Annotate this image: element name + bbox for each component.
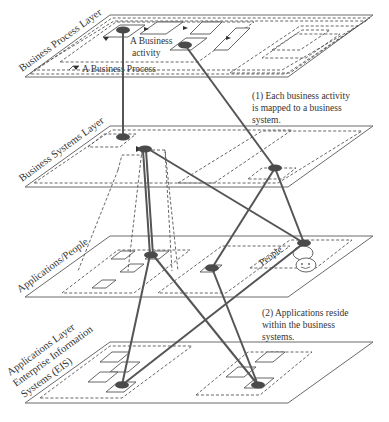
node-app-1 — [144, 252, 158, 259]
svg-text:(2) Applications reside: (2) Applications reside — [262, 308, 349, 319]
node-activity-1 — [116, 27, 130, 34]
svg-text:systems.: systems. — [262, 332, 294, 342]
node-app-2 — [205, 265, 219, 272]
smiley-icon — [296, 258, 316, 272]
node-eis-1 — [115, 382, 129, 389]
node-system-3 — [268, 165, 282, 172]
node-eis-2 — [251, 382, 265, 389]
node-activity-2 — [178, 42, 192, 49]
business-activity-label-1: A Business — [130, 36, 173, 46]
layer-applications-eis — [25, 342, 373, 403]
layered-architecture-diagram: People A Business — [0, 0, 389, 422]
node-people — [297, 240, 311, 247]
note-2: (2) Applications reside within the busin… — [262, 308, 349, 342]
svg-text:(1) Each business activity: (1) Each business activity — [252, 91, 350, 102]
business-activity-label-2: activity — [132, 48, 161, 58]
node-system-1 — [116, 134, 130, 141]
svg-text:system.: system. — [252, 115, 281, 125]
svg-text:within the business: within the business — [262, 320, 335, 330]
business-process-label: A Business Process — [82, 64, 156, 74]
node-system-2 — [138, 146, 152, 153]
svg-text:is mapped to a business: is mapped to a business — [252, 103, 342, 113]
note-1: (1) Each business activity is mapped to … — [252, 91, 350, 125]
